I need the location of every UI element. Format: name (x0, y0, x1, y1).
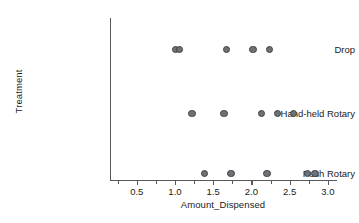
x-tick-label-4: 2.5 (283, 186, 296, 197)
data-point (290, 110, 297, 117)
data-point (220, 110, 227, 117)
x-tick-minor-0 (118, 181, 119, 184)
x-tick-major-0 (137, 181, 138, 185)
y-axis-title: Treatment (13, 52, 24, 132)
x-tick-label-5: 3.0 (321, 186, 334, 197)
data-point (258, 110, 265, 117)
x-tick-minor-2 (194, 181, 195, 184)
data-point (249, 46, 256, 53)
data-point (223, 46, 230, 53)
x-tick-minor-1 (156, 181, 157, 184)
x-axis-line (110, 180, 337, 181)
x-tick-major-5 (328, 181, 329, 185)
data-point (227, 170, 234, 177)
plot-area (110, 18, 337, 180)
x-tick-major-4 (290, 181, 291, 185)
data-point (176, 46, 183, 53)
x-tick-minor-3 (232, 181, 233, 184)
x-tick-label-3: 2.0 (245, 186, 258, 197)
data-point (201, 170, 208, 177)
x-tick-major-3 (251, 181, 252, 185)
data-point (311, 170, 318, 177)
x-tick-major-2 (213, 181, 214, 185)
data-point (274, 110, 281, 117)
x-axis-title: Amount_Dispensed (110, 199, 336, 210)
x-tick-minor-4 (271, 181, 272, 184)
data-point (188, 110, 195, 117)
x-tick-label-0: 0.5 (130, 186, 143, 197)
data-point (266, 46, 273, 53)
x-tick-major-1 (175, 181, 176, 185)
x-tick-minor-5 (309, 181, 310, 184)
x-tick-label-1: 1.0 (168, 186, 181, 197)
x-tick-label-2: 1.5 (207, 186, 220, 197)
dot-plot-chart: Treatment DropHand-held RotaryPush Rotar… (0, 0, 359, 223)
data-point (263, 170, 270, 177)
data-point (304, 170, 311, 177)
